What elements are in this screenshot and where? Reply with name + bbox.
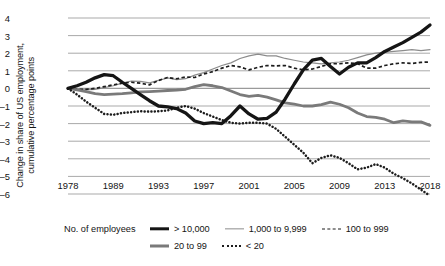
y-tick-label: 0 bbox=[0, 83, 10, 94]
x-tick-label: 1997 bbox=[193, 180, 214, 191]
x-tick-label: 1993 bbox=[148, 180, 169, 191]
legend-swatch-solid-thick-icon bbox=[150, 224, 169, 234]
legend-swatch-dotted-icon bbox=[222, 241, 241, 251]
legend-label-1000-to-9999: 1,000 to 9,999 bbox=[249, 224, 307, 234]
legend-label-20-to-99: 20 to 99 bbox=[174, 241, 207, 251]
x-tick-label: 2009 bbox=[329, 180, 350, 191]
legend-label-lt-20: < 20 bbox=[246, 241, 264, 251]
y-tick-label: –6 bbox=[0, 189, 10, 200]
legend-item-gt-10000[interactable]: > 10,000 bbox=[150, 224, 210, 234]
x-tick-label: 2001 bbox=[239, 180, 260, 191]
legend-swatch-solid-medium-icon bbox=[150, 241, 169, 251]
legend-label-100-to-999: 100 to 999 bbox=[346, 224, 389, 234]
legend-item-20-to-99[interactable]: 20 to 99 bbox=[150, 241, 207, 251]
y-axis-label-line2: cumulative percentage points bbox=[26, 15, 37, 215]
y-tick-label: –1 bbox=[0, 101, 10, 112]
series-line-100-to-999 bbox=[68, 62, 430, 89]
x-tick-label: 2018 bbox=[420, 180, 441, 191]
x-tick-label: 1989 bbox=[103, 180, 124, 191]
y-tick-label: 3 bbox=[0, 30, 10, 41]
chart-svg bbox=[68, 18, 430, 194]
series-line-10-000 bbox=[68, 25, 430, 124]
y-tick-label: 4 bbox=[0, 13, 10, 24]
legend-swatch-solid-thin-icon bbox=[225, 224, 244, 234]
y-tick-label: –3 bbox=[0, 136, 10, 147]
legend-swatch-dashed-icon bbox=[322, 224, 341, 234]
plot-area bbox=[68, 18, 430, 194]
x-tick-label: 1978 bbox=[58, 180, 79, 191]
chart-legend: No. of employees > 10,000 1,000 to 9,999… bbox=[64, 220, 444, 254]
y-axis-label-line1: Change in share of US employment, bbox=[15, 15, 26, 215]
legend-row-1: No. of employees > 10,000 1,000 to 9,999… bbox=[64, 220, 444, 237]
chart-figure: Change in share of US employment, cumula… bbox=[0, 0, 445, 266]
legend-item-lt-20[interactable]: < 20 bbox=[222, 241, 264, 251]
legend-label-gt-10000: > 10,000 bbox=[174, 224, 210, 234]
legend-row-2: 20 to 99 < 20 bbox=[64, 237, 444, 254]
y-tick-label: –5 bbox=[0, 171, 10, 182]
y-tick-label: 2 bbox=[0, 48, 10, 59]
series-line-20-to-99 bbox=[68, 85, 430, 126]
y-tick-label: 1 bbox=[0, 65, 10, 76]
y-tick-label: –4 bbox=[0, 153, 10, 164]
x-tick-label: 2005 bbox=[284, 180, 305, 191]
legend-item-100-to-999[interactable]: 100 to 999 bbox=[322, 224, 389, 234]
y-tick-label: –2 bbox=[0, 118, 10, 129]
legend-title: No. of employees bbox=[64, 224, 150, 234]
x-tick-label: 2013 bbox=[374, 180, 395, 191]
y-axis-label: Change in share of US employment, cumula… bbox=[15, 15, 38, 215]
legend-item-1000-to-9999[interactable]: 1,000 to 9,999 bbox=[225, 224, 307, 234]
